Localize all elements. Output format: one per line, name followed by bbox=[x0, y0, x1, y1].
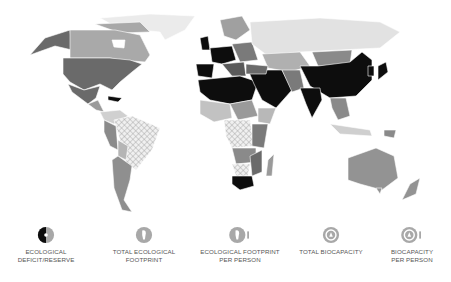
region-usa bbox=[63, 58, 142, 90]
legend-label: ECOLOGICAL bbox=[16, 248, 76, 256]
region-botswana-namibia bbox=[232, 164, 250, 176]
biocapacity-icon bbox=[322, 226, 340, 244]
footprint-person-icon bbox=[228, 226, 252, 244]
region-italy-balkans bbox=[222, 62, 246, 76]
legend-label: ECOLOGICAL FOOTPRINT bbox=[196, 248, 284, 256]
region-sahel bbox=[230, 100, 258, 120]
footprint-icon bbox=[135, 226, 153, 244]
legend-label: FOOTPRINT bbox=[108, 256, 180, 264]
region-india bbox=[300, 88, 322, 118]
region-korea bbox=[368, 66, 374, 76]
region-south-africa bbox=[232, 176, 254, 190]
region-iberia bbox=[196, 64, 214, 78]
region-madagascar bbox=[266, 154, 274, 176]
legend-item-biocapacity-per-person: BIOCAPACITY PER PERSON bbox=[382, 222, 442, 263]
region-horn-africa bbox=[258, 108, 276, 124]
region-north-africa bbox=[198, 76, 258, 104]
region-papua bbox=[384, 130, 396, 138]
legend-item-total-biocapacity: TOTAL BIOCAPACITY bbox=[294, 222, 368, 256]
region-central-africa bbox=[224, 120, 254, 148]
region-indonesia bbox=[330, 124, 372, 136]
region-turkey bbox=[246, 64, 268, 74]
legend: ECOLOGICAL DEFICIT/RESERVE TOTAL ECOLOGI… bbox=[0, 222, 451, 282]
region-japan bbox=[378, 62, 388, 80]
half-black-circle-icon bbox=[37, 226, 55, 244]
biocapacity-person-icon bbox=[400, 226, 424, 244]
region-russia bbox=[250, 18, 400, 56]
region-tasmania bbox=[376, 188, 382, 194]
legend-label: TOTAL ECOLOGICAL bbox=[108, 248, 180, 256]
region-uk bbox=[200, 36, 210, 50]
legend-label: PER PERSON bbox=[196, 256, 284, 264]
region-western-europe bbox=[210, 46, 236, 64]
region-new-zealand bbox=[402, 178, 420, 200]
legend-label: BIOCAPACITY bbox=[382, 248, 442, 256]
legend-item-footprint-per-person: ECOLOGICAL FOOTPRINT PER PERSON bbox=[196, 222, 284, 263]
region-canada bbox=[70, 30, 150, 62]
region-alaska bbox=[30, 30, 72, 55]
region-argentina-chile bbox=[112, 156, 132, 212]
legend-label: DEFICIT/RESERVE bbox=[16, 256, 76, 264]
region-australia bbox=[348, 148, 398, 190]
region-scandinavia bbox=[220, 16, 250, 40]
region-hudson-bay bbox=[112, 40, 125, 48]
region-southeast-asia bbox=[330, 98, 350, 120]
legend-item-deficit-reserve: ECOLOGICAL DEFICIT/RESERVE bbox=[16, 222, 76, 263]
legend-label: PER PERSON bbox=[382, 256, 442, 264]
world-map bbox=[0, 0, 451, 220]
region-caribbean bbox=[108, 96, 122, 102]
region-east-africa bbox=[252, 124, 268, 148]
legend-label: TOTAL BIOCAPACITY bbox=[294, 248, 368, 256]
legend-item-total-footprint: TOTAL ECOLOGICAL FOOTPRINT bbox=[108, 222, 180, 263]
